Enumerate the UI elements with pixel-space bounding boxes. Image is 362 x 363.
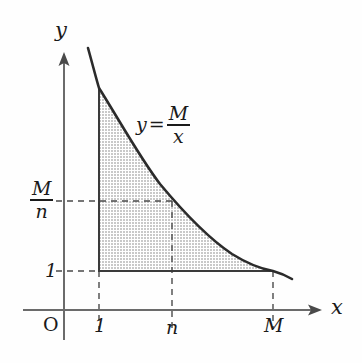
y-tick-label-m-over-n: M n xyxy=(30,179,53,221)
equation-lhs: y xyxy=(136,115,147,134)
x-axis-label: x xyxy=(331,297,343,318)
figure-root: y x O 1 n M 1 M n y = M x xyxy=(0,0,362,363)
y-tick-label-1: 1 xyxy=(45,261,57,280)
fraction-m-over-n: M n xyxy=(30,179,53,221)
figure-canvas xyxy=(0,0,362,363)
y-axis-label: y xyxy=(55,20,67,41)
equation-numerator: M xyxy=(167,104,190,124)
equation-equals-sign: = xyxy=(148,115,166,134)
fraction-m-over-x: M x xyxy=(167,104,190,146)
x-tick-label-m: M xyxy=(264,316,283,335)
curve-equation-label: y = M x xyxy=(136,104,190,146)
fraction-denominator: n xyxy=(34,201,50,221)
origin-label: O xyxy=(43,315,59,334)
x-tick-label-1: 1 xyxy=(94,316,106,335)
fraction-numerator: M xyxy=(30,179,53,199)
equation-denominator: x xyxy=(171,126,186,146)
x-tick-label-n: n xyxy=(166,318,178,337)
